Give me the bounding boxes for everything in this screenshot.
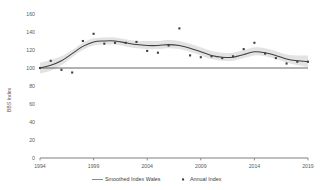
annual-index-point	[178, 27, 180, 29]
annual-index-point	[103, 43, 105, 45]
annual-index-point	[39, 67, 41, 69]
annual-index-point	[296, 61, 298, 63]
annual-index-point	[135, 41, 137, 43]
annual-index-point	[60, 69, 62, 71]
annual-index-point	[50, 60, 52, 62]
annual-index-point	[221, 57, 223, 59]
annual-index-point	[189, 54, 191, 56]
x-tick-label: 2009	[195, 163, 207, 169]
annual-index-point	[243, 48, 245, 50]
annual-index-point	[200, 56, 202, 58]
bbs-index-chart: 020406080100120140160 199419992004200920…	[0, 0, 320, 190]
y-tick-label: 140	[26, 29, 35, 35]
y-tick-label: 0	[32, 155, 35, 161]
legend-marker-swatch	[182, 178, 184, 180]
y-tick-label: 120	[26, 47, 35, 53]
annual-index-point	[307, 61, 309, 63]
y-tick-label: 20	[29, 137, 35, 143]
y-tick-label: 60	[29, 101, 35, 107]
y-tick-label: 80	[29, 83, 35, 89]
annual-index-point	[125, 42, 127, 44]
annual-index-point	[275, 57, 277, 59]
y-axis-title: BBS Index	[6, 87, 12, 112]
annual-index-point	[71, 71, 73, 73]
chart-container: 020406080100120140160 199419992004200920…	[0, 0, 320, 190]
annual-index-point	[146, 50, 148, 52]
annual-index-point	[157, 52, 159, 54]
legend-label-annual: Annual Index	[190, 176, 222, 182]
annual-index-point	[210, 55, 212, 57]
annual-index-point	[168, 44, 170, 46]
chart-legend: Smoothed Index Wales Annual Index	[92, 176, 222, 182]
annual-index-point	[82, 40, 84, 42]
legend-label-smoothed: Smoothed Index Wales	[105, 176, 161, 182]
annual-index-point	[232, 55, 234, 57]
x-tick-label: 2004	[141, 163, 153, 169]
y-tick-label: 100	[26, 65, 35, 71]
x-axis-tick-labels: 199419992004200920142019	[34, 163, 314, 169]
annual-index-point	[253, 42, 255, 44]
annual-index-point	[93, 33, 95, 35]
x-tick-label: 1994	[34, 163, 46, 169]
annual-index-point	[114, 42, 116, 44]
y-tick-label: 160	[26, 11, 35, 17]
annual-index-point	[264, 53, 266, 55]
annual-index-point	[286, 62, 288, 64]
x-tick-label: 2014	[249, 163, 261, 169]
x-tick-label: 1999	[88, 163, 100, 169]
y-tick-label: 40	[29, 119, 35, 125]
y-axis-tick-labels: 020406080100120140160	[26, 11, 35, 161]
x-tick-label: 2019	[302, 163, 314, 169]
